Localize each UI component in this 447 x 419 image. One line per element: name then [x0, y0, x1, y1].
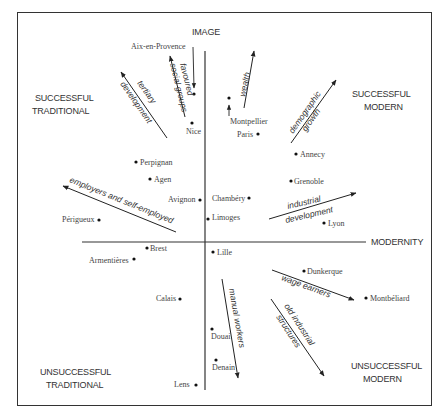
svg-text:Perpignan: Perpignan [140, 158, 172, 167]
city-chambery: Chambéry [212, 194, 251, 203]
city-douai: Douai [210, 327, 231, 341]
axis-label-image: IMAGE [192, 27, 220, 37]
svg-text:Brest: Brest [150, 244, 168, 253]
svg-text:wealth: wealth [237, 71, 252, 97]
svg-text:TRADITIONAL: TRADITIONAL [32, 106, 90, 116]
factor-wealth: wealth [237, 51, 254, 108]
svg-text:Lyon: Lyon [328, 219, 344, 228]
svg-text:Douai: Douai [211, 332, 231, 341]
svg-text:Lens: Lens [174, 380, 190, 389]
svg-text:Denain: Denain [212, 363, 235, 372]
city-calais: Calais [156, 294, 182, 303]
svg-text:wage earners: wage earners [280, 272, 333, 299]
city-annecy: Annecy [294, 150, 324, 159]
city-limoges: Limoges [206, 213, 240, 222]
svg-text:SUCCESSFUL: SUCCESSFUL [35, 93, 94, 103]
svg-text:Avignon: Avignon [168, 195, 195, 204]
svg-text:Chambéry: Chambéry [212, 194, 245, 203]
svg-text:Périgueux: Périgueux [62, 215, 94, 224]
svg-text:Agen: Agen [154, 175, 171, 184]
svg-text:UNSUCCESSFUL: UNSUCCESSFUL [351, 361, 422, 371]
svg-text:Calais: Calais [156, 294, 176, 303]
svg-text:Annecy: Annecy [300, 150, 325, 159]
svg-text:Paris: Paris [237, 130, 253, 139]
city-avignon: Avignon [168, 195, 202, 204]
city-nice: Nice [186, 121, 202, 136]
svg-text:Dunkerque: Dunkerque [307, 267, 343, 276]
svg-text:Armentières: Armentières [89, 256, 129, 265]
svg-text:Nice: Nice [186, 127, 202, 136]
svg-text:Aix-en-Provence: Aix-en-Provence [131, 42, 186, 51]
city-lyon: Lyon [322, 219, 344, 228]
svg-text:Montpellier: Montpellier [230, 117, 268, 126]
svg-text:Limoges: Limoges [212, 213, 240, 222]
city-montbeliard: Montbéliard [364, 294, 409, 303]
svg-text:SUCCESSFUL: SUCCESSFUL [352, 89, 411, 99]
city-montpellier: Montpellier [227, 96, 268, 126]
svg-text:Lille: Lille [217, 248, 233, 257]
city-lille: Lille [211, 248, 232, 257]
city-denain: Denain [212, 358, 235, 372]
city-paris: Paris [237, 130, 260, 139]
svg-text:MODERN: MODERN [364, 102, 403, 112]
quadrant-bottom-right: UNSUCCESSFUL MODERN [351, 361, 422, 384]
city-perigueux: Périgueux [62, 215, 101, 224]
quadrant-top-right: SUCCESSFUL MODERN [352, 89, 411, 112]
quadrant-top-left: SUCCESSFUL TRADITIONAL [32, 93, 94, 116]
svg-text:UNSUCCESSFUL: UNSUCCESSFUL [40, 367, 111, 377]
city-perpignan: Perpignan [134, 158, 172, 167]
factor-old-industrial-structures: old industrial structures [271, 299, 324, 376]
city-brest: Brest [145, 244, 167, 253]
city-armentieres: Armentières [89, 256, 136, 265]
axis-label-modernity: MODERNITY [371, 237, 423, 247]
diagram-canvas: IMAGE MODERNITY SUCCESSFUL TRADITIONAL S… [0, 0, 447, 419]
factor-favoured-social-groups: favoured social groups [168, 56, 196, 117]
diagram-svg: IMAGE MODERNITY SUCCESSFUL TRADITIONAL S… [0, 0, 447, 419]
city-lens: Lens [174, 380, 198, 389]
factor-tertiary-development: tertiary development [118, 72, 167, 138]
city-agen: Agen [148, 175, 171, 184]
svg-text:Montbéliard: Montbéliard [370, 294, 410, 303]
factor-demographic-growth: demographic growth [286, 80, 336, 143]
city-dunkerque: Dunkerque [302, 267, 343, 276]
city-grenoble: Grenoble [289, 177, 324, 186]
svg-text:TRADITIONAL: TRADITIONAL [46, 380, 104, 390]
svg-text:MODERN: MODERN [363, 374, 402, 384]
quadrant-bottom-left: UNSUCCESSFUL TRADITIONAL [40, 367, 111, 390]
svg-text:Grenoble: Grenoble [294, 177, 324, 186]
